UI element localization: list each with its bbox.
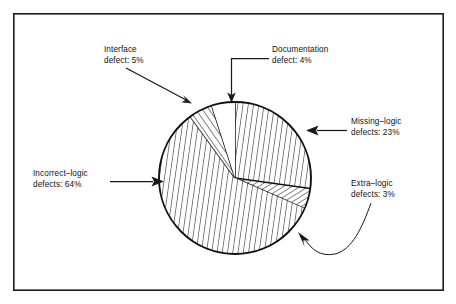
- callout-documentation-line2: defect: 4%: [272, 56, 312, 65]
- callout-missing-logic-line1: Missing–logic: [351, 117, 401, 126]
- callout-incorrect-logic-line2: defects: 64%: [33, 180, 82, 189]
- callout-interface-line2: defect: 5%: [104, 56, 144, 65]
- defect-pie-chart-figure: Interface defect: 5% Documentation defec…: [0, 0, 456, 304]
- callout-incorrect-logic-line1: Incorrect–logic: [33, 169, 88, 178]
- callout-extra-logic-line1: Extra–logic: [351, 179, 393, 188]
- callout-missing-logic-line2: defects: 23%: [351, 128, 400, 137]
- pie-chart: [159, 102, 311, 254]
- callout-extra-logic-line2: defects: 3%: [351, 190, 395, 199]
- callout-documentation-line1: Documentation: [272, 45, 329, 54]
- figure-root: Interface defect: 5% Documentation defec…: [0, 0, 456, 304]
- callout-interface-line1: Interface: [104, 45, 137, 54]
